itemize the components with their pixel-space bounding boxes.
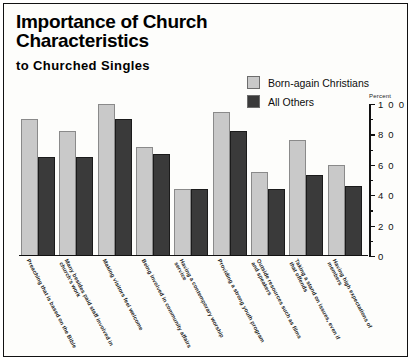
y-tick — [369, 195, 375, 196]
bar — [328, 165, 345, 256]
y-tick-label: 4 0 — [378, 190, 395, 201]
bar — [191, 189, 208, 256]
y-tick-minor — [369, 210, 373, 211]
bar — [251, 172, 268, 256]
y-tick-minor — [369, 241, 373, 242]
title-block: Importance of Church Characteristics to … — [16, 12, 276, 73]
bar-group — [249, 104, 287, 256]
bar — [306, 175, 323, 256]
bar — [268, 189, 285, 256]
bar — [76, 157, 93, 256]
bar — [21, 119, 38, 256]
legend-item-born-again: Born-again Christians — [247, 76, 369, 89]
y-tick — [369, 165, 375, 166]
bar — [213, 112, 230, 256]
bar-group — [326, 104, 364, 256]
bar-group — [134, 104, 172, 256]
bar-groups — [19, 104, 364, 256]
bar — [59, 131, 76, 256]
bar — [98, 104, 115, 256]
y-tick-minor — [369, 119, 373, 120]
bar-group — [57, 104, 95, 256]
y-tick-label: 1 0 0 — [378, 99, 405, 110]
plot-area — [19, 104, 369, 256]
bar — [174, 189, 191, 256]
y-tick — [369, 226, 375, 227]
bar-group — [211, 104, 249, 256]
y-tick-minor — [369, 180, 373, 181]
chart-subtitle: to Churched Singles — [16, 59, 276, 73]
bar-group — [19, 104, 57, 256]
legend-swatch-icon — [247, 76, 260, 89]
bar — [345, 186, 362, 256]
bar — [38, 157, 55, 256]
chart-frame: Importance of Church Characteristics to … — [3, 3, 408, 357]
bar-group — [96, 104, 134, 256]
y-tick-minor — [369, 150, 373, 151]
y-tick-label: 8 0 — [378, 129, 395, 140]
bar-group — [287, 104, 325, 256]
legend-item-label: Born-again Christians — [268, 77, 369, 89]
bar-group — [172, 104, 210, 256]
page-title: Importance of Church Characteristics — [16, 12, 276, 50]
y-tick-label: 0 — [378, 251, 384, 262]
bar — [115, 119, 132, 256]
y-tick — [369, 134, 375, 135]
y-tick — [369, 104, 375, 105]
bar — [289, 140, 306, 256]
y-tick-label: 2 0 — [378, 220, 395, 231]
bar — [153, 154, 170, 256]
y-axis: Percent 02 04 06 08 01 0 0 — [369, 104, 408, 258]
bar — [230, 131, 247, 256]
x-axis-labels: Preaching that is based on the BibleMany… — [19, 258, 369, 357]
y-tick — [369, 256, 375, 257]
bar — [136, 147, 153, 256]
y-tick-label: 6 0 — [378, 159, 395, 170]
axis-baseline — [19, 255, 368, 257]
